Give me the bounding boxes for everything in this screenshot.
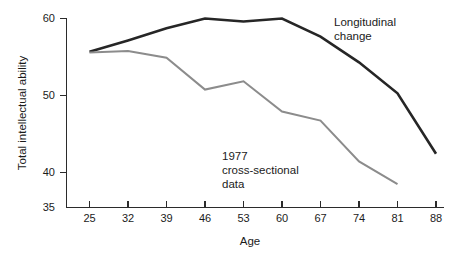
x-tick-label-39: 39 [160, 212, 172, 224]
y-tick-label-35: 35 [43, 201, 55, 213]
x-axis-title: Age [240, 235, 260, 247]
x-tick-label-53: 53 [237, 212, 249, 224]
y-tick-label-50: 50 [43, 89, 55, 101]
annotation-cross-sectional-line-2: cross-sectional [222, 164, 299, 176]
annotation-longitudinal-change: Longitudinal change [334, 16, 396, 42]
x-axis-tick-labels: 25 32 39 46 53 60 67 74 81 88 [83, 212, 442, 224]
annotation-cross-sectional-data: 1977 cross-sectional data [222, 150, 299, 190]
x-tick-label-81: 81 [391, 212, 403, 224]
y-axis-title: Total intellectual ability [16, 56, 28, 171]
series-line-longitudinal-change [90, 19, 437, 154]
chart-container: 60 50 40 35 25 32 39 46 53 60 67 [0, 0, 454, 255]
x-tick-label-67: 67 [314, 212, 326, 224]
x-tick-label-88: 88 [430, 212, 442, 224]
line-chart-plot: 60 50 40 35 25 32 39 46 53 60 67 [0, 0, 454, 255]
annotation-cross-sectional-line-1: 1977 [222, 150, 248, 162]
x-tick-label-32: 32 [122, 212, 134, 224]
annotation-longitudinal-line-1: Longitudinal [334, 16, 396, 28]
x-tick-label-46: 46 [199, 212, 211, 224]
x-tick-label-60: 60 [276, 212, 288, 224]
y-tick-label-60: 60 [43, 12, 55, 24]
annotation-longitudinal-line-2: change [334, 30, 372, 42]
y-axis-tick-labels: 60 50 40 35 [43, 12, 55, 213]
annotation-cross-sectional-line-3: data [222, 178, 245, 190]
x-axis-ticks [90, 201, 437, 208]
y-tick-label-40: 40 [43, 166, 55, 178]
x-tick-label-74: 74 [353, 212, 365, 224]
x-tick-label-25: 25 [83, 212, 95, 224]
y-axis-ticks [60, 19, 67, 173]
